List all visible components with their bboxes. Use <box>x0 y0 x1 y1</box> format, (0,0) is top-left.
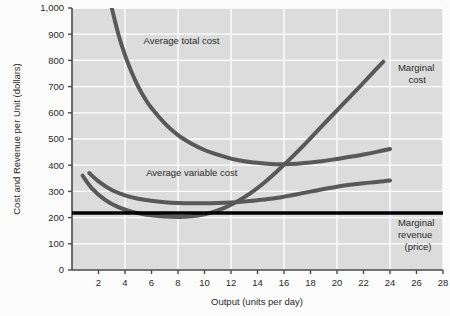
curve-annotation-label: Average variable cost <box>146 167 238 178</box>
x-tick-label: 22 <box>358 277 369 288</box>
x-tick-label: 2 <box>96 277 101 288</box>
y-tick-label: 100 <box>48 238 64 249</box>
y-axis-tick-labels: 1,0009008007006005004003002001000 <box>40 2 64 275</box>
x-tick-label: 10 <box>199 277 210 288</box>
y-tick-label: 600 <box>48 107 64 118</box>
y-tick-label: 400 <box>48 160 64 171</box>
curve-annotation-label: (price) <box>405 241 432 252</box>
cost-curves-chart: 1,0009008007006005004003002001000 246810… <box>0 0 450 316</box>
y-tick-label: 700 <box>48 81 64 92</box>
y-tick-label: 900 <box>48 29 64 40</box>
x-tick-label: 26 <box>411 277 422 288</box>
x-tick-label: 6 <box>149 277 154 288</box>
y-tick-label: 200 <box>48 212 64 223</box>
y-tick-label: 800 <box>48 55 64 66</box>
x-tick-label: 24 <box>385 277 396 288</box>
y-tick-label: 1,000 <box>40 2 64 13</box>
x-tick-label: 14 <box>252 277 263 288</box>
x-axis-title: Output (units per day) <box>211 296 303 307</box>
curve-annotation-label: cost <box>409 74 427 85</box>
x-tick-label: 28 <box>438 277 449 288</box>
x-tick-label: 20 <box>332 277 343 288</box>
x-axis-tick-labels: 246810121416182022242628 <box>96 277 448 288</box>
curve-annotation-label: revenue <box>398 229 432 240</box>
curve-annotation-label: Marginal <box>398 217 434 228</box>
x-tick-label: 16 <box>279 277 290 288</box>
x-tick-label: 8 <box>175 277 180 288</box>
y-tick-label: 500 <box>48 133 64 144</box>
economics-cost-curves-figure: 1,0009008007006005004003002001000 246810… <box>0 0 450 316</box>
curve-annotation-label: Average total cost <box>144 35 220 46</box>
x-tick-label: 12 <box>226 277 237 288</box>
y-axis-title: Cost and Revenue per Unit (dollars) <box>11 63 22 215</box>
y-tick-label: 300 <box>48 186 64 197</box>
curve-annotation-label: Marginal <box>398 62 434 73</box>
x-tick-label: 4 <box>122 277 127 288</box>
x-tick-label: 18 <box>305 277 316 288</box>
y-tick-label: 0 <box>59 264 64 275</box>
